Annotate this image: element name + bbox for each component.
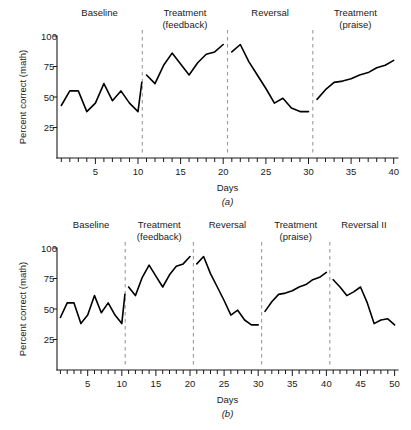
figure-b: BaselineTreatment(feedback)ReversalTreat… [0, 212, 411, 430]
data-line-b-phase-5 [333, 280, 394, 325]
x-tick-label-5: 5 [93, 166, 98, 177]
y-tick-label-100: 100 [41, 243, 57, 254]
chart-a: BaselineTreatment(feedback)ReversalTreat… [0, 0, 411, 215]
x-tick-label-35: 35 [287, 378, 298, 389]
data-line-a-phase-2 [147, 45, 224, 84]
phase-label-b-5: Reversal II [341, 219, 386, 230]
x-tick-label-10: 10 [133, 166, 144, 177]
data-line-b-phase-3 [197, 257, 258, 325]
y-tick-label-50: 50 [44, 304, 55, 315]
x-tick-label-15: 15 [175, 166, 186, 177]
x-tick-label-10: 10 [117, 378, 128, 389]
y-tick-label-100: 100 [41, 31, 57, 42]
x-tick-label-45: 45 [355, 378, 366, 389]
x-tick-label-25: 25 [261, 166, 272, 177]
x-axis-title: Days [217, 182, 239, 193]
data-line-a-phase-1 [61, 82, 142, 111]
phase-sublabel-b-4: (praise) [280, 231, 312, 242]
phase-sublabel-a-2: (feedback) [162, 19, 207, 30]
data-line-a-phase-3 [232, 45, 309, 112]
x-tick-label-30: 30 [303, 166, 314, 177]
phase-label-b-3: Reversal [209, 219, 247, 230]
x-tick-label-5: 5 [85, 378, 90, 389]
y-tick-label-75: 75 [44, 61, 55, 72]
x-tick-label-35: 35 [346, 166, 357, 177]
data-line-b-phase-2 [129, 257, 190, 296]
y-axis-title: Percent correct (math) [17, 50, 28, 145]
x-tick-label-40: 40 [388, 166, 399, 177]
x-tick-label-20: 20 [218, 166, 229, 177]
phase-label-a-1: Baseline [81, 7, 117, 18]
phase-label-a-4: Treatment [334, 7, 377, 18]
x-tick-label-30: 30 [253, 378, 264, 389]
data-line-a-phase-4 [317, 60, 394, 99]
phase-label-b-2: Treatment [138, 219, 181, 230]
data-line-b-phase-4 [265, 272, 326, 311]
phase-label-b-4: Treatment [274, 219, 317, 230]
x-tick-label-40: 40 [321, 378, 332, 389]
y-tick-label-25: 25 [44, 122, 55, 133]
x-axis-title: Days [217, 394, 239, 405]
y-axis-title: Percent correct (math) [17, 262, 28, 357]
y-tick-label-75: 75 [44, 273, 55, 284]
x-tick-label-25: 25 [219, 378, 230, 389]
y-tick-label-25: 25 [44, 334, 55, 345]
phase-sublabel-b-2: (feedback) [137, 231, 182, 242]
x-tick-label-50: 50 [389, 378, 400, 389]
figure-a: BaselineTreatment(feedback)ReversalTreat… [0, 0, 411, 215]
phase-label-b-1: Baseline [73, 219, 109, 230]
panel-letter-b: (b) [222, 408, 234, 419]
phase-label-a-3: Reversal [251, 7, 289, 18]
chart-b: BaselineTreatment(feedback)ReversalTreat… [0, 212, 411, 430]
y-tick-label-50: 50 [44, 92, 55, 103]
phase-label-a-2: Treatment [163, 7, 206, 18]
x-tick-label-15: 15 [151, 378, 162, 389]
phase-sublabel-a-4: (praise) [339, 19, 371, 30]
data-line-b-phase-1 [60, 294, 125, 323]
figure-page: BaselineTreatment(feedback)ReversalTreat… [0, 0, 411, 430]
panel-letter-a: (a) [222, 196, 234, 207]
x-tick-label-20: 20 [185, 378, 196, 389]
